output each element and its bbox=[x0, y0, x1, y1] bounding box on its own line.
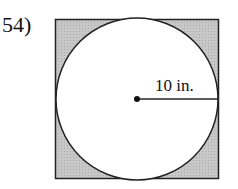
inscribed-circle-diagram: 10 in. bbox=[0, 0, 238, 189]
center-point bbox=[134, 96, 140, 102]
radius-label: 10 in. bbox=[155, 76, 194, 95]
